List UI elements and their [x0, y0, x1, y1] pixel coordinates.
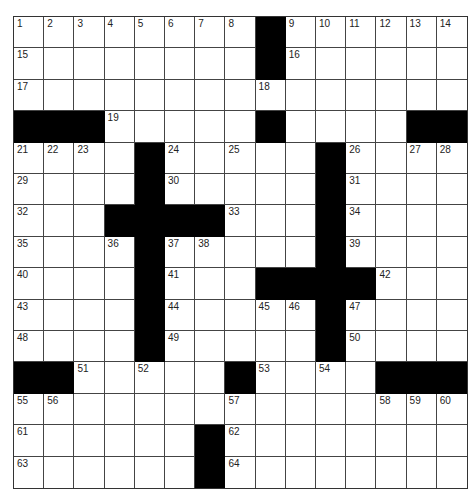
grid-cell[interactable]: 41 [165, 268, 195, 299]
grid-cell[interactable] [286, 237, 316, 268]
grid-cell[interactable]: 59 [407, 394, 437, 425]
grid-cell[interactable]: 17 [14, 80, 44, 111]
grid-cell[interactable]: 30 [165, 174, 195, 205]
grid-cell[interactable] [376, 205, 406, 236]
grid-cell[interactable] [286, 111, 316, 142]
grid-cell[interactable]: 7 [195, 17, 225, 48]
grid-cell[interactable]: 4 [105, 17, 135, 48]
grid-cell[interactable] [376, 174, 406, 205]
grid-cell[interactable] [165, 394, 195, 425]
grid-cell[interactable] [74, 80, 104, 111]
grid-cell[interactable]: 33 [225, 205, 255, 236]
grid-cell[interactable] [376, 331, 406, 362]
grid-cell[interactable] [407, 457, 437, 488]
grid-cell[interactable] [256, 237, 286, 268]
grid-cell[interactable] [165, 457, 195, 488]
grid-cell[interactable]: 10 [316, 17, 346, 48]
grid-cell[interactable]: 35 [14, 237, 44, 268]
grid-cell[interactable]: 39 [346, 237, 376, 268]
grid-cell[interactable] [105, 48, 135, 79]
grid-cell[interactable]: 34 [346, 205, 376, 236]
grid-cell[interactable] [437, 425, 467, 456]
grid-cell[interactable]: 53 [256, 362, 286, 393]
grid-cell[interactable] [346, 394, 376, 425]
grid-cell[interactable] [44, 268, 74, 299]
grid-cell[interactable] [225, 237, 255, 268]
grid-cell[interactable] [195, 80, 225, 111]
grid-cell[interactable] [316, 48, 346, 79]
grid-cell[interactable] [74, 457, 104, 488]
grid-cell[interactable] [135, 425, 165, 456]
grid-cell[interactable] [407, 331, 437, 362]
grid-cell[interactable] [286, 457, 316, 488]
grid-cell[interactable] [286, 362, 316, 393]
grid-cell[interactable] [407, 80, 437, 111]
grid-cell[interactable]: 3 [74, 17, 104, 48]
grid-cell[interactable]: 14 [437, 17, 467, 48]
grid-cell[interactable]: 6 [165, 17, 195, 48]
grid-cell[interactable] [105, 143, 135, 174]
grid-cell[interactable] [225, 48, 255, 79]
grid-cell[interactable] [437, 237, 467, 268]
grid-cell[interactable] [256, 205, 286, 236]
grid-cell[interactable]: 2 [44, 17, 74, 48]
grid-cell[interactable] [316, 80, 346, 111]
grid-cell[interactable] [195, 362, 225, 393]
grid-cell[interactable] [44, 205, 74, 236]
grid-cell[interactable] [225, 111, 255, 142]
grid-cell[interactable]: 27 [407, 143, 437, 174]
grid-cell[interactable]: 25 [225, 143, 255, 174]
grid-cell[interactable] [286, 80, 316, 111]
grid-cell[interactable] [286, 205, 316, 236]
grid-cell[interactable] [165, 48, 195, 79]
grid-cell[interactable]: 9 [286, 17, 316, 48]
grid-cell[interactable]: 52 [135, 362, 165, 393]
grid-cell[interactable] [346, 48, 376, 79]
grid-cell[interactable]: 40 [14, 268, 44, 299]
grid-cell[interactable] [225, 80, 255, 111]
grid-cell[interactable] [437, 205, 467, 236]
grid-cell[interactable]: 54 [316, 362, 346, 393]
grid-cell[interactable] [407, 237, 437, 268]
grid-cell[interactable] [44, 425, 74, 456]
grid-cell[interactable] [376, 457, 406, 488]
grid-cell[interactable] [316, 111, 346, 142]
grid-cell[interactable] [316, 394, 346, 425]
grid-cell[interactable]: 1 [14, 17, 44, 48]
grid-cell[interactable] [407, 174, 437, 205]
grid-cell[interactable] [376, 425, 406, 456]
grid-cell[interactable] [437, 48, 467, 79]
grid-cell[interactable] [286, 425, 316, 456]
grid-cell[interactable] [195, 143, 225, 174]
grid-cell[interactable] [225, 268, 255, 299]
grid-cell[interactable]: 28 [437, 143, 467, 174]
grid-cell[interactable] [195, 394, 225, 425]
grid-cell[interactable] [105, 331, 135, 362]
grid-cell[interactable]: 31 [346, 174, 376, 205]
grid-cell[interactable] [225, 331, 255, 362]
grid-cell[interactable]: 44 [165, 300, 195, 331]
grid-cell[interactable] [286, 174, 316, 205]
grid-cell[interactable] [407, 48, 437, 79]
grid-cell[interactable] [346, 425, 376, 456]
grid-cell[interactable]: 38 [195, 237, 225, 268]
grid-cell[interactable]: 26 [346, 143, 376, 174]
grid-cell[interactable]: 21 [14, 143, 44, 174]
grid-cell[interactable]: 63 [14, 457, 44, 488]
grid-cell[interactable] [346, 362, 376, 393]
grid-cell[interactable] [74, 331, 104, 362]
grid-cell[interactable] [105, 425, 135, 456]
grid-cell[interactable] [135, 394, 165, 425]
grid-cell[interactable] [437, 80, 467, 111]
grid-cell[interactable]: 45 [256, 300, 286, 331]
grid-cell[interactable] [256, 457, 286, 488]
grid-cell[interactable] [105, 394, 135, 425]
grid-cell[interactable] [135, 457, 165, 488]
grid-cell[interactable] [225, 300, 255, 331]
grid-cell[interactable] [376, 48, 406, 79]
grid-cell[interactable]: 55 [14, 394, 44, 425]
grid-cell[interactable] [437, 300, 467, 331]
grid-cell[interactable] [286, 143, 316, 174]
grid-cell[interactable]: 15 [14, 48, 44, 79]
grid-cell[interactable]: 60 [437, 394, 467, 425]
